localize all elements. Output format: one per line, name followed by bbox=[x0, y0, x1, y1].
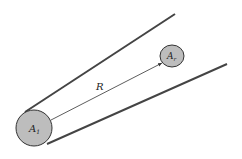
distance-arrow bbox=[51, 63, 162, 120]
view-factor-diagram: R A1 Ar bbox=[0, 0, 242, 159]
diagram-canvas: R A1 Ar bbox=[0, 0, 242, 159]
distance-label: R bbox=[95, 81, 104, 92]
